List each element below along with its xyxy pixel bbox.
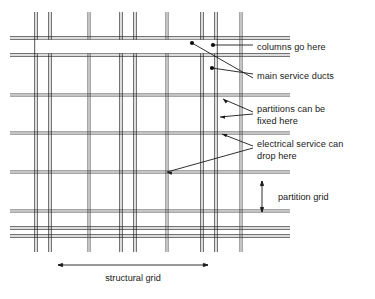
marker-dot-ducts-0 [210, 66, 214, 70]
arrowhead-partitions-b [220, 115, 225, 119]
dimension-arrowhead-partition-grid-end [260, 207, 263, 212]
planning-grid-diagram: columns go here main service ducts parti… [0, 0, 375, 299]
dimension-label-partition-grid: partition grid [278, 192, 329, 202]
diagram-canvas: columns go here main service ducts parti… [0, 0, 375, 299]
dimension-arrowhead-partition-grid-start [260, 181, 263, 186]
dimension-label-structural-grid: structural grid [105, 273, 161, 283]
arrowhead-partitions-a [222, 98, 228, 104]
marker-dot-columns-1 [211, 43, 215, 47]
dimension-arrowhead-structural-grid-end [203, 263, 208, 266]
horizontal-partition-line-0 [10, 94, 290, 96]
annotation-label-partitions-line1: partitions can be [257, 104, 325, 114]
horizontal-structural-line-2 [10, 227, 290, 230]
annotation-label-ducts: main service ducts [257, 71, 334, 81]
horizontal-partition-line-3 [10, 210, 290, 212]
grid-lines-layer [10, 12, 290, 252]
main-service-duct-band [36, 40, 216, 53]
annotation-label-columns: columns go here [257, 42, 326, 52]
horizontal-structural-line-3 [10, 235, 290, 238]
annotation-label-partitions-line2: fixed here [257, 116, 298, 126]
annotation-label-electrical-line2: drop here [257, 151, 297, 161]
annotation-label-electrical-line1: electrical service can [257, 139, 343, 149]
arrowhead-electrical-a [221, 132, 227, 137]
marker-dot-columns-0 [190, 41, 194, 45]
dimension-arrowhead-structural-grid-start [58, 263, 63, 266]
horizontal-partition-line-2 [10, 171, 290, 173]
dimension-arrows-layer [58, 181, 264, 267]
horizontal-partition-line-1 [10, 132, 290, 134]
horizontal-structural-line-1 [10, 54, 290, 57]
leader-line-ducts [212, 68, 253, 74]
horizontal-structural-line-0 [10, 37, 290, 40]
